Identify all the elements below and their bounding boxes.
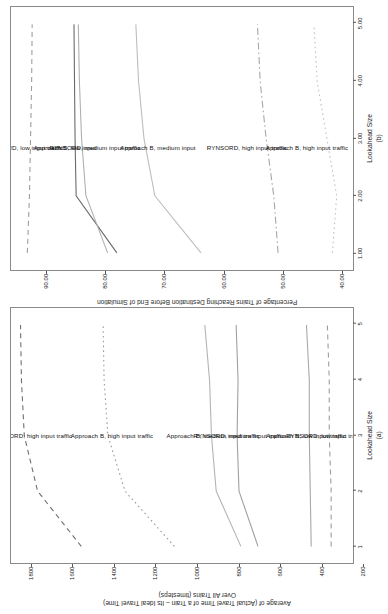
figure-canvas: Average of (Actual Travel Time of a Trai… <box>0 0 388 614</box>
two-panel-figure: Average of (Actual Travel Time of a Trai… <box>0 0 388 614</box>
x-tick-mark <box>353 490 356 491</box>
series-label: RYNSORD, low input traffic <box>285 432 354 439</box>
y-tick-label: 70.00 <box>161 274 167 289</box>
y-tick-label: 90.00 <box>43 274 49 289</box>
y-tick-label: 200 <box>360 567 366 577</box>
x-tick-mark <box>353 195 356 196</box>
panel-a-y-axis: Average of (Actual Travel Time of a Trai… <box>10 564 384 608</box>
x-tick-label: 1.00 <box>357 248 363 260</box>
x-tick-mark <box>353 546 356 547</box>
y-tick-mark <box>280 564 281 567</box>
y-tick-mark <box>342 271 343 274</box>
panel-b-y-axis-title: Percentage of Trains Reaching Destinatio… <box>97 297 297 307</box>
y-tick-mark <box>105 271 106 274</box>
series-line <box>27 24 32 252</box>
y-tick-label: 80.00 <box>102 274 108 289</box>
x-tick-mark <box>353 80 356 81</box>
x-tick-mark <box>353 253 356 254</box>
y-tick-mark <box>283 271 284 274</box>
y-tick-mark <box>31 564 32 567</box>
y-tick-label: 1800 <box>28 567 34 580</box>
y-tick-label: 50.00 <box>280 274 286 289</box>
y-tick-mark <box>164 271 165 274</box>
series-line <box>136 24 201 252</box>
panel-a: Average of (Actual Travel Time of a Trai… <box>10 307 384 608</box>
y-tick-label: 40.00 <box>339 274 345 289</box>
panel-a-x-axis-label: Lookahead Size <box>366 411 373 460</box>
panel-b-y-axis: Percentage of Trains Reaching Destinatio… <box>10 271 384 307</box>
panel-b-y-tick-labels: 40.0050.0060.0070.0080.0090.00 <box>10 271 384 297</box>
series-line <box>314 24 337 252</box>
y-tick-mark <box>46 271 47 274</box>
x-tick-label: 2.00 <box>357 190 363 202</box>
x-tick-mark <box>353 22 356 23</box>
y-tick-mark <box>322 564 323 567</box>
y-tick-mark <box>197 564 198 567</box>
series-label: Approach B, medium input <box>120 144 195 151</box>
panel-a-y-axis-title: Average of (Actual Travel Time of a Trai… <box>103 590 291 608</box>
series-line <box>74 24 117 252</box>
y-tick-label: 800 <box>236 567 242 577</box>
panel-a-x-axis: Lookahead Size (a) 12345 <box>354 307 384 564</box>
panel-a-y-tick-labels: 20040060080010001200140016001800 <box>10 564 384 590</box>
y-tick-label: 1200 <box>152 567 158 580</box>
x-tick-label: 4 <box>357 378 363 381</box>
panel-a-x-axis-title: Lookahead Size (a) <box>366 411 384 460</box>
y-tick-label: 400 <box>319 567 325 577</box>
y-tick-mark <box>155 564 156 567</box>
series-label: Approach B, high input traffic <box>71 432 153 439</box>
panel-b-letter: (b) <box>375 114 384 163</box>
x-tick-mark <box>353 434 356 435</box>
panel-b-series-lines <box>11 7 353 270</box>
series-label: RYNSORD, high input traffic <box>10 432 72 439</box>
panel-a-plot-area: RYNSORD, high input trafficApproach B, h… <box>10 307 354 564</box>
y-tick-mark <box>239 564 240 567</box>
panel-a-letter: (a) <box>375 411 384 460</box>
y-tick-label: 600 <box>277 567 283 577</box>
y-tick-mark <box>114 564 115 567</box>
y-tick-mark <box>363 564 364 567</box>
x-tick-label: 4.00 <box>357 75 363 87</box>
x-tick-label: 5 <box>357 322 363 325</box>
panel-b-plot-area: RYNSORD, low input trafficApproach B, lo… <box>10 6 354 271</box>
x-tick-mark <box>353 323 356 324</box>
panel-b-plot-column: RYNSORD, low input trafficApproach B, lo… <box>10 6 384 271</box>
y-tick-mark <box>224 271 225 274</box>
x-tick-label: 3.00 <box>357 133 363 145</box>
x-tick-mark <box>353 137 356 138</box>
y-tick-label: 1400 <box>111 567 117 580</box>
panel-b: Percentage of Trains Reaching Destinatio… <box>10 6 384 307</box>
x-tick-label: 2 <box>357 489 363 492</box>
series-line <box>257 24 278 252</box>
x-tick-label: 5.00 <box>357 17 363 29</box>
panel-b-x-axis-title: Lookahead Size (b) <box>366 114 384 163</box>
x-tick-label: 1 <box>357 545 363 548</box>
y-tick-label: 1000 <box>194 567 200 580</box>
y-tick-mark <box>72 564 73 567</box>
panel-a-plot-column: RYNSORD, high input trafficApproach B, h… <box>10 307 384 564</box>
y-tick-label: 60.00 <box>221 274 227 289</box>
y-tick-label: 1600 <box>69 567 75 580</box>
x-tick-label: 3 <box>357 434 363 437</box>
x-tick-mark <box>353 379 356 380</box>
panel-b-x-axis: Lookahead Size (b) 1.002.003.004.005.00 <box>354 6 384 271</box>
series-label: Approach B, high input traffic <box>266 144 348 151</box>
panel-b-x-axis-label: Lookahead Size <box>366 114 373 163</box>
